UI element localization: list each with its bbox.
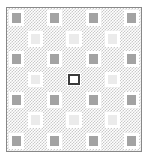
tile-r4c3 <box>48 73 61 87</box>
tile-r5c4 <box>67 93 80 107</box>
tile-r3c5[interactable] <box>87 52 100 66</box>
grid-cell[interactable] <box>103 90 122 110</box>
grid-widget <box>0 0 149 159</box>
grid-cell[interactable] <box>122 28 141 48</box>
tile-r2c2[interactable] <box>29 32 42 46</box>
grid-cell[interactable] <box>7 49 26 69</box>
tile-r6c7 <box>125 113 138 127</box>
tile-r4c4[interactable] <box>67 73 80 87</box>
grid-cell[interactable] <box>64 110 83 130</box>
tile-r7c2 <box>29 134 42 148</box>
grid-cell[interactable] <box>45 28 64 48</box>
tile-r5c1[interactable] <box>10 93 23 107</box>
grid-cell[interactable] <box>7 131 26 151</box>
grid-cell[interactable] <box>64 69 83 89</box>
tile-r3c1[interactable] <box>10 52 23 66</box>
grid-cell[interactable] <box>103 131 122 151</box>
grid-cell[interactable] <box>45 69 64 89</box>
tile-r7c3[interactable] <box>48 134 61 148</box>
tile-r5c6 <box>106 93 119 107</box>
grid-cell[interactable] <box>103 28 122 48</box>
cell-grid[interactable] <box>7 8 141 151</box>
grid-cell[interactable] <box>84 8 103 28</box>
grid-cell[interactable] <box>84 90 103 110</box>
grid-cell[interactable] <box>84 69 103 89</box>
grid-cell[interactable] <box>103 110 122 130</box>
grid-cell[interactable] <box>122 49 141 69</box>
tile-r1c3[interactable] <box>48 11 61 25</box>
tile-r7c1[interactable] <box>10 134 23 148</box>
tile-r1c4 <box>67 11 80 25</box>
grid-cell[interactable] <box>26 131 45 151</box>
tile-r6c2[interactable] <box>29 113 42 127</box>
grid-cell[interactable] <box>45 49 64 69</box>
grid-cell[interactable] <box>122 8 141 28</box>
grid-cell[interactable] <box>7 8 26 28</box>
tile-r7c5[interactable] <box>87 134 100 148</box>
board-frame <box>6 7 142 152</box>
tile-r6c6[interactable] <box>106 113 119 127</box>
tile-r4c1 <box>10 73 23 87</box>
tile-r2c3 <box>48 32 61 46</box>
tile-r7c4 <box>67 134 80 148</box>
tile-r1c5[interactable] <box>87 11 100 25</box>
tile-r2c4[interactable] <box>67 32 80 46</box>
grid-cell[interactable] <box>45 131 64 151</box>
grid-cell[interactable] <box>122 69 141 89</box>
tile-r7c7[interactable] <box>125 134 138 148</box>
tile-r4c2[interactable] <box>29 73 42 87</box>
tile-r6c3 <box>48 113 61 127</box>
grid-cell[interactable] <box>7 90 26 110</box>
tile-r1c7[interactable] <box>125 11 138 25</box>
tile-r6c5 <box>87 113 100 127</box>
tile-r1c6 <box>106 11 119 25</box>
tile-r6c1 <box>10 113 23 127</box>
grid-cell[interactable] <box>122 131 141 151</box>
grid-cell[interactable] <box>26 90 45 110</box>
tile-r1c1[interactable] <box>10 11 23 25</box>
tile-r6c4[interactable] <box>67 113 80 127</box>
tile-r3c6 <box>106 52 119 66</box>
grid-cell[interactable] <box>122 90 141 110</box>
grid-cell[interactable] <box>45 110 64 130</box>
tile-r2c7 <box>125 32 138 46</box>
grid-cell[interactable] <box>64 49 83 69</box>
grid-cell[interactable] <box>26 49 45 69</box>
tile-r2c6[interactable] <box>106 32 119 46</box>
grid-cell[interactable] <box>84 49 103 69</box>
tile-r5c3[interactable] <box>48 93 61 107</box>
grid-cell[interactable] <box>64 90 83 110</box>
tile-r3c3[interactable] <box>48 52 61 66</box>
grid-cell[interactable] <box>26 110 45 130</box>
grid-cell[interactable] <box>103 69 122 89</box>
tile-r5c7[interactable] <box>125 93 138 107</box>
grid-cell[interactable] <box>84 28 103 48</box>
tile-r5c5[interactable] <box>87 93 100 107</box>
grid-cell[interactable] <box>64 8 83 28</box>
tile-r3c7[interactable] <box>125 52 138 66</box>
grid-cell[interactable] <box>103 8 122 28</box>
grid-cell[interactable] <box>7 28 26 48</box>
grid-cell[interactable] <box>7 110 26 130</box>
grid-cell[interactable] <box>84 110 103 130</box>
grid-cell[interactable] <box>7 69 26 89</box>
tile-r3c2 <box>29 52 42 66</box>
grid-cell[interactable] <box>103 49 122 69</box>
grid-cell[interactable] <box>26 8 45 28</box>
tile-r3c4 <box>67 52 80 66</box>
tile-r2c5 <box>87 32 100 46</box>
tile-r7c6 <box>106 134 119 148</box>
grid-cell[interactable] <box>45 8 64 28</box>
grid-cell[interactable] <box>64 28 83 48</box>
tile-r4c5 <box>87 73 100 87</box>
grid-cell[interactable] <box>84 131 103 151</box>
grid-cell[interactable] <box>45 90 64 110</box>
grid-cell[interactable] <box>26 28 45 48</box>
tile-r2c1 <box>10 32 23 46</box>
tile-r1c2 <box>29 11 42 25</box>
grid-cell[interactable] <box>64 131 83 151</box>
tile-r4c6[interactable] <box>106 73 119 87</box>
grid-cell[interactable] <box>122 110 141 130</box>
grid-cell[interactable] <box>26 69 45 89</box>
tile-r5c2 <box>29 93 42 107</box>
